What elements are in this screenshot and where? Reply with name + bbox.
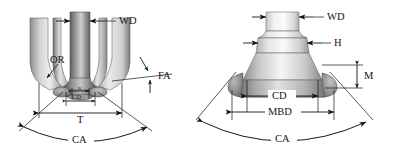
left-lobe-left [53, 87, 71, 97]
right-label-mbd: MBD [268, 106, 292, 117]
right-label-ca: CA [275, 133, 290, 144]
left-label-ca: CA [72, 134, 87, 145]
right-top-cylinder [266, 12, 299, 31]
right-cone-body [243, 53, 322, 80]
left-label-wd: WD [119, 15, 137, 26]
right-label-wd: WD [327, 11, 345, 22]
right-label-cd: CD [272, 90, 287, 101]
diagram-canvas: WD OR FA R CD [0, 0, 394, 157]
right-mid-band [256, 38, 309, 53]
right-upper-fillet [258, 31, 307, 38]
left-label-t: T [77, 114, 84, 125]
left-label-or: OR [50, 54, 65, 65]
right-label-m: M [364, 70, 374, 81]
left-label-cd: CD [72, 93, 81, 100]
left-shaft [70, 12, 90, 84]
left-label-fa: FA [158, 70, 171, 81]
right-label-h: H [334, 37, 342, 48]
